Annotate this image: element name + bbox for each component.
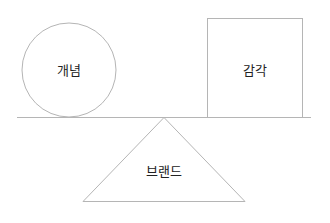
concept-label: 개념 bbox=[57, 63, 81, 78]
sense-label: 감각 bbox=[243, 63, 267, 78]
brand-triangle bbox=[83, 118, 245, 202]
brand-label: 브랜드 bbox=[146, 164, 182, 179]
balance-diagram: 개념 감각 브랜드 bbox=[0, 0, 330, 223]
